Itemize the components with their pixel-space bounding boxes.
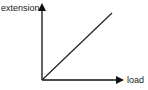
- data-line: [42, 13, 112, 80]
- x-axis-arrow-icon: [116, 76, 124, 84]
- x-axis-label: load: [127, 76, 144, 85]
- chart-canvas: [0, 0, 148, 90]
- y-axis-label: extension: [1, 4, 40, 13]
